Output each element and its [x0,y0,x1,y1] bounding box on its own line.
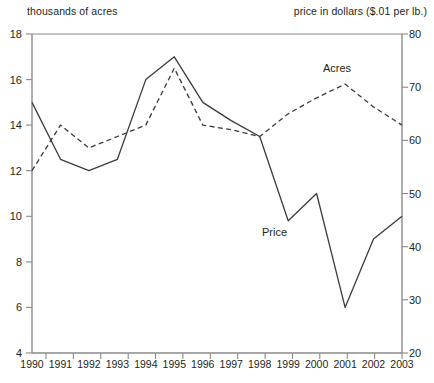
chart-container: thousands of acres price in dollars ($.0… [0,0,434,383]
left-axis-ticks [26,34,32,353]
x-tick-2002: 2002 [362,358,385,370]
price-series-label: Price [262,226,287,238]
left-axis-tick-labels: 1816141210864 [0,0,22,383]
x-tick-2000: 2000 [305,358,328,370]
right-tick-40: 40 [409,241,434,253]
x-tick-1997: 1997 [220,358,243,370]
right-tick-30: 30 [409,294,434,306]
x-tick-1993: 1993 [106,358,129,370]
right-tick-80: 80 [409,28,434,40]
left-tick-16: 16 [0,74,22,86]
right-tick-60: 60 [409,134,434,146]
acres-series-label: Acres [323,62,351,74]
x-tick-1994: 1994 [134,358,157,370]
left-tick-12: 12 [0,165,22,177]
price-series-line [32,57,402,308]
x-tick-1998: 1998 [248,358,271,370]
x-tick-2003: 2003 [390,358,413,370]
left-tick-14: 14 [0,119,22,131]
left-tick-18: 18 [0,28,22,40]
x-tick-1995: 1995 [163,358,186,370]
right-tick-70: 70 [409,81,434,93]
right-tick-50: 50 [409,188,434,200]
right-axis-ticks [402,34,408,353]
x-tick-2001: 2001 [333,358,356,370]
right-axis-tick-labels: 80706050403020 [409,0,434,383]
x-tick-1999: 1999 [276,358,299,370]
x-tick-1991: 1991 [49,358,72,370]
left-tick-8: 8 [0,256,22,268]
x-tick-1990: 1990 [20,358,43,370]
left-tick-6: 6 [0,301,22,313]
chart-svg [0,0,434,383]
x-tick-1996: 1996 [191,358,214,370]
x-axis-tick-labels: 1990199119921993199419951996199719981999… [0,355,434,379]
acres-series-line [32,68,402,171]
x-tick-1992: 1992 [77,358,100,370]
left-tick-10: 10 [0,210,22,222]
